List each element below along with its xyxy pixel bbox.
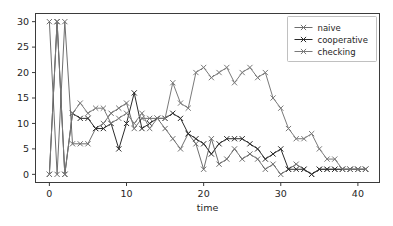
x-axis-label: time: [197, 202, 219, 213]
x-tick-label: 0: [46, 188, 52, 199]
y-tick-label: 5: [23, 143, 29, 154]
y-tick-label: 25: [17, 41, 29, 52]
y-axis-ticks: 051015202530: [17, 16, 36, 180]
x-tick-label: 10: [120, 188, 132, 199]
x-axis-ticks: 010203040: [46, 183, 364, 199]
legend-label-checking: checking: [318, 47, 356, 57]
x-tick-label: 40: [352, 188, 364, 199]
legend-label-cooperative: cooperative: [318, 35, 368, 45]
legend-label-naive: naive: [318, 23, 341, 33]
x-tick-label: 30: [275, 188, 287, 199]
y-tick-label: 15: [17, 92, 29, 103]
x-tick-label: 20: [198, 188, 210, 199]
y-tick-label: 0: [23, 169, 29, 180]
line-chart: 010203040 051015202530 time naivecoopera…: [0, 0, 393, 226]
y-tick-label: 10: [17, 118, 29, 129]
chart-figure: 010203040 051015202530 time naivecoopera…: [0, 0, 393, 226]
chart-legend: naivecooperativechecking: [288, 17, 377, 62]
y-tick-label: 20: [17, 67, 29, 78]
y-tick-label: 30: [17, 16, 29, 27]
